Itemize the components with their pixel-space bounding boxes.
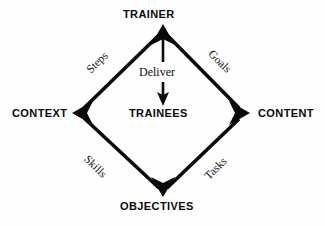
- vertex-label-objectives: OBJECTIVES: [120, 201, 194, 212]
- center-label-deliver: Deliver: [139, 66, 175, 78]
- vertex-label-content: CONTENT: [258, 108, 314, 119]
- center-label-trainees: TRAINEES: [129, 108, 188, 119]
- vertex-label-context: CONTEXT: [12, 108, 67, 119]
- arrowhead-objectives-icon: [151, 177, 175, 197]
- vertex-label-trainer: TRAINER: [123, 9, 175, 20]
- arrowhead-context-icon: [72, 101, 93, 125]
- edge-tasks-line: [167, 119, 239, 188]
- edge-skills-line: [84, 118, 159, 188]
- diagram-canvas: TRAINER CONTEXT CONTENT OBJECTIVES Deliv…: [0, 0, 325, 226]
- arrowhead-content-icon: [229, 101, 250, 125]
